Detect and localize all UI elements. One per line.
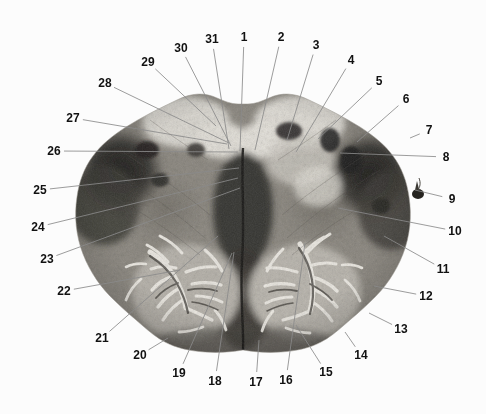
label-5[interactable]: 5 bbox=[376, 75, 383, 87]
label-7[interactable]: 7 bbox=[426, 124, 433, 136]
label-16[interactable]: 16 bbox=[279, 374, 292, 386]
label-20[interactable]: 20 bbox=[133, 349, 146, 361]
label-22[interactable]: 22 bbox=[57, 285, 70, 297]
label-17[interactable]: 17 bbox=[249, 376, 262, 388]
label-4[interactable]: 4 bbox=[348, 54, 355, 66]
label-9[interactable]: 9 bbox=[449, 193, 456, 205]
label-28[interactable]: 28 bbox=[98, 77, 111, 89]
anatomical-figure: 1234567891011121314151617181920212223242… bbox=[0, 0, 486, 414]
label-21[interactable]: 21 bbox=[95, 332, 108, 344]
specimen-plate bbox=[0, 0, 486, 414]
label-2[interactable]: 2 bbox=[278, 31, 285, 43]
label-29[interactable]: 29 bbox=[141, 56, 154, 68]
label-18[interactable]: 18 bbox=[208, 375, 221, 387]
label-23[interactable]: 23 bbox=[40, 253, 53, 265]
label-19[interactable]: 19 bbox=[172, 367, 185, 379]
label-10[interactable]: 10 bbox=[448, 225, 461, 237]
label-12[interactable]: 12 bbox=[419, 290, 432, 302]
label-13[interactable]: 13 bbox=[394, 323, 407, 335]
label-1[interactable]: 1 bbox=[241, 31, 248, 43]
label-30[interactable]: 30 bbox=[174, 42, 187, 54]
label-27[interactable]: 27 bbox=[66, 112, 79, 124]
label-15[interactable]: 15 bbox=[319, 366, 332, 378]
label-25[interactable]: 25 bbox=[33, 184, 46, 196]
label-8[interactable]: 8 bbox=[443, 151, 450, 163]
label-11[interactable]: 11 bbox=[437, 263, 450, 275]
label-26[interactable]: 26 bbox=[47, 145, 60, 157]
label-6[interactable]: 6 bbox=[403, 93, 410, 105]
label-24[interactable]: 24 bbox=[31, 221, 44, 233]
label-14[interactable]: 14 bbox=[354, 349, 367, 361]
label-3[interactable]: 3 bbox=[313, 39, 320, 51]
label-31[interactable]: 31 bbox=[205, 33, 218, 45]
